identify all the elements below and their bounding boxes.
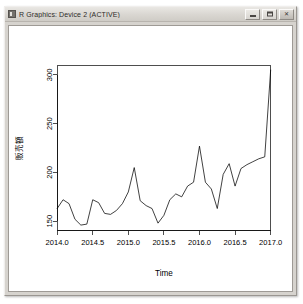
x-axis: 2014.02014.52015.02015.52016.02016.52017… — [46, 231, 283, 247]
minimize-icon — [250, 15, 256, 17]
window-title: R Graphics: Device 2 (ACTIVE) — [19, 11, 245, 18]
time-series-chart: 150200250300 2014.02014.52015.02015.5201… — [9, 26, 292, 291]
window-titlebar[interactable]: R Graphics: Device 2 (ACTIVE) ✕ — [5, 7, 296, 22]
maximize-button[interactable] — [262, 9, 277, 20]
x-tick-label: 2014.5 — [81, 238, 104, 247]
maximize-icon — [267, 12, 273, 17]
close-icon: ✕ — [284, 11, 289, 17]
x-tick-label: 2017.0 — [259, 238, 282, 247]
plot-frame — [57, 65, 270, 231]
x-tick-label: 2016.5 — [224, 238, 247, 247]
x-tick-label: 2014.0 — [46, 238, 69, 247]
series-line — [57, 70, 270, 225]
y-tick-label: 300 — [45, 69, 54, 82]
window-controls: ✕ — [245, 9, 294, 20]
x-tick-label: 2015.0 — [117, 238, 140, 247]
x-tick-label: 2016.0 — [188, 238, 211, 247]
x-tick-label: 2015.5 — [152, 238, 175, 247]
plot-canvas: 150200250300 2014.02014.52015.02015.5201… — [8, 25, 293, 292]
y-tick-label: 150 — [45, 215, 54, 228]
minimize-button[interactable] — [245, 9, 260, 20]
r-graphics-icon — [8, 10, 16, 18]
r-graphics-window: R Graphics: Device 2 (ACTIVE) ✕ 15020025… — [4, 6, 297, 296]
y-axis: 150200250300 — [45, 69, 57, 228]
y-tick-label: 200 — [45, 166, 54, 179]
x-axis-title: Time — [155, 269, 173, 278]
close-button[interactable]: ✕ — [279, 9, 294, 20]
y-tick-label: 250 — [45, 117, 54, 130]
y-axis-title: 販売額 — [14, 136, 24, 160]
